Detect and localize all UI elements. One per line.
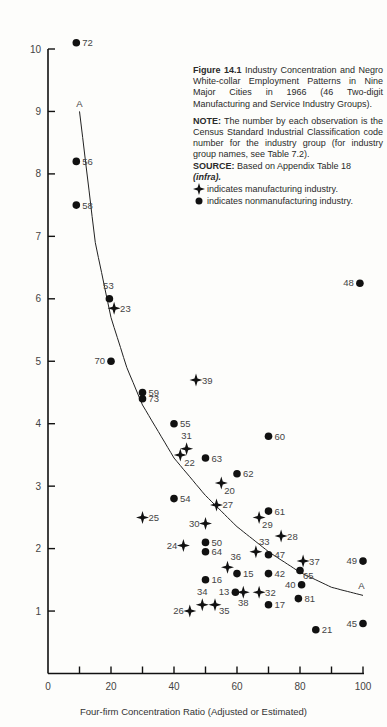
point-code-label: 25 (149, 512, 160, 523)
point-code-label: 70 (94, 355, 105, 366)
nonmanufacturing-marker-icon (359, 557, 367, 565)
data-point: 42 (265, 568, 285, 579)
nonmanufacturing-marker-icon (73, 201, 81, 209)
nonmanufacturing-marker-icon (106, 295, 114, 303)
manufacturing-marker-icon (253, 586, 266, 599)
nonmanufacturing-marker-icon (202, 548, 210, 556)
data-point: 55 (170, 418, 190, 429)
source-infra: (infra). (193, 172, 221, 182)
point-code-label: 42 (275, 568, 286, 579)
x-axis-label: Four-firm Concentration Ratio (Adjusted … (0, 706, 387, 717)
nonmanufacturing-marker-icon (233, 470, 241, 478)
data-point: 23 (108, 302, 131, 315)
point-code-label: 56 (82, 156, 93, 167)
data-point: 26 (173, 605, 196, 618)
diamond-star-icon (193, 183, 205, 195)
data-point: 15 (233, 568, 253, 579)
point-code-label: 60 (275, 431, 286, 442)
note-label: NOTE: (193, 116, 221, 126)
x-tick-label: 0 (45, 681, 51, 692)
point-code-label: 35 (219, 605, 230, 616)
data-point: 38 (237, 586, 250, 609)
y-tick-label: 6 (35, 293, 41, 304)
data-point: 49 (346, 555, 366, 566)
nonmanufacturing-marker-icon (359, 620, 367, 628)
data-point: 24 (167, 539, 190, 552)
nonmanufacturing-marker-icon (298, 581, 306, 589)
nonmanufacturing-marker-icon (232, 589, 240, 597)
nonmanufacturing-marker-icon (73, 39, 81, 47)
nonmanufacturing-marker-icon (312, 626, 320, 634)
point-code-label: 39 (202, 375, 213, 386)
data-point: 58 (73, 200, 93, 211)
manufacturing-marker-icon (177, 539, 190, 552)
point-code-label: 64 (212, 546, 223, 557)
nonmanufacturing-marker-icon (170, 420, 178, 428)
data-point: 22 (174, 448, 195, 468)
figure-caption: Figure 14.1 Industry Concentration and N… (193, 65, 383, 207)
data-point: 16 (202, 574, 222, 585)
y-tick-label: 2 (35, 543, 41, 554)
data-point: 13 (219, 586, 239, 597)
nonmanufacturing-marker-icon (265, 551, 273, 559)
point-code-label: 55 (180, 418, 191, 429)
point-code-label: 53 (103, 280, 114, 291)
nonmanufacturing-marker-icon (202, 454, 210, 462)
manufacturing-marker-icon (275, 530, 288, 543)
data-point: 21 (312, 624, 332, 635)
data-point: 45 (346, 618, 366, 629)
point-code-label: 54 (180, 493, 191, 504)
data-point: 60 (265, 431, 285, 442)
curve-label-top: A (76, 98, 83, 109)
point-code-label: 24 (167, 540, 178, 551)
manufacturing-marker-icon (221, 561, 234, 574)
legend-text-nonmanufacturing: indicates nonmanufacturing industry. (207, 195, 353, 207)
y-tick-label: 9 (35, 106, 41, 117)
manufacturing-marker-icon (210, 498, 223, 511)
point-code-label: 58 (82, 200, 93, 211)
manufacturing-marker-icon (199, 517, 212, 530)
point-code-label: 37 (309, 556, 320, 567)
point-code-label: 45 (346, 618, 357, 629)
manufacturing-marker-icon (297, 555, 310, 568)
point-code-label: 23 (120, 303, 131, 314)
point-code-label: 20 (224, 485, 235, 496)
figure-title-block: Figure 14.1 Industry Concentration and N… (193, 65, 383, 110)
data-point: 20 (215, 477, 235, 497)
legend-item-nonmanufacturing: indicates nonmanufacturing industry. (193, 195, 383, 207)
manufacturing-marker-icon (136, 511, 149, 524)
data-point: 35 (209, 598, 230, 616)
point-code-label: 15 (243, 568, 254, 579)
x-tick-label: 20 (105, 681, 117, 692)
manufacturing-marker-icon (196, 598, 209, 611)
data-point: 32 (253, 586, 276, 599)
data-point: 54 (170, 493, 190, 504)
point-code-label: 47 (275, 549, 286, 560)
x-tick-label: 40 (168, 681, 180, 692)
y-tick-label: 7 (35, 231, 41, 242)
point-code-label: 30 (189, 518, 200, 529)
nonmanufacturing-marker-icon (265, 601, 273, 609)
y-tick-label: 1 (35, 606, 41, 617)
point-code-label: 72 (82, 37, 93, 48)
point-code-label: 49 (346, 555, 357, 566)
point-code-label: 29 (262, 519, 273, 530)
point-code-label: 17 (275, 599, 286, 610)
point-code-label: 38 (238, 597, 249, 608)
source-label: SOURCE: (193, 161, 235, 171)
point-code-label: 65 (303, 570, 314, 581)
legend-item-manufacturing: indicates manufacturing industry. (193, 183, 383, 195)
nonmanufacturing-marker-icon (107, 358, 115, 366)
nonmanufacturing-marker-icon (202, 576, 210, 584)
data-point: 30 (189, 517, 212, 530)
data-point: 34 (196, 586, 209, 612)
data-point: 70 (94, 355, 114, 366)
data-point: 27 (210, 498, 233, 511)
note-block: NOTE: The number by each observation is … (193, 116, 383, 183)
nonmanufacturing-marker-icon (233, 570, 241, 578)
y-tick-label: 10 (30, 44, 42, 55)
legend-text-manufacturing: indicates manufacturing industry. (207, 183, 338, 195)
point-code-label: 73 (149, 393, 160, 404)
point-code-label: 16 (212, 574, 223, 585)
x-tick-label: 60 (231, 681, 243, 692)
